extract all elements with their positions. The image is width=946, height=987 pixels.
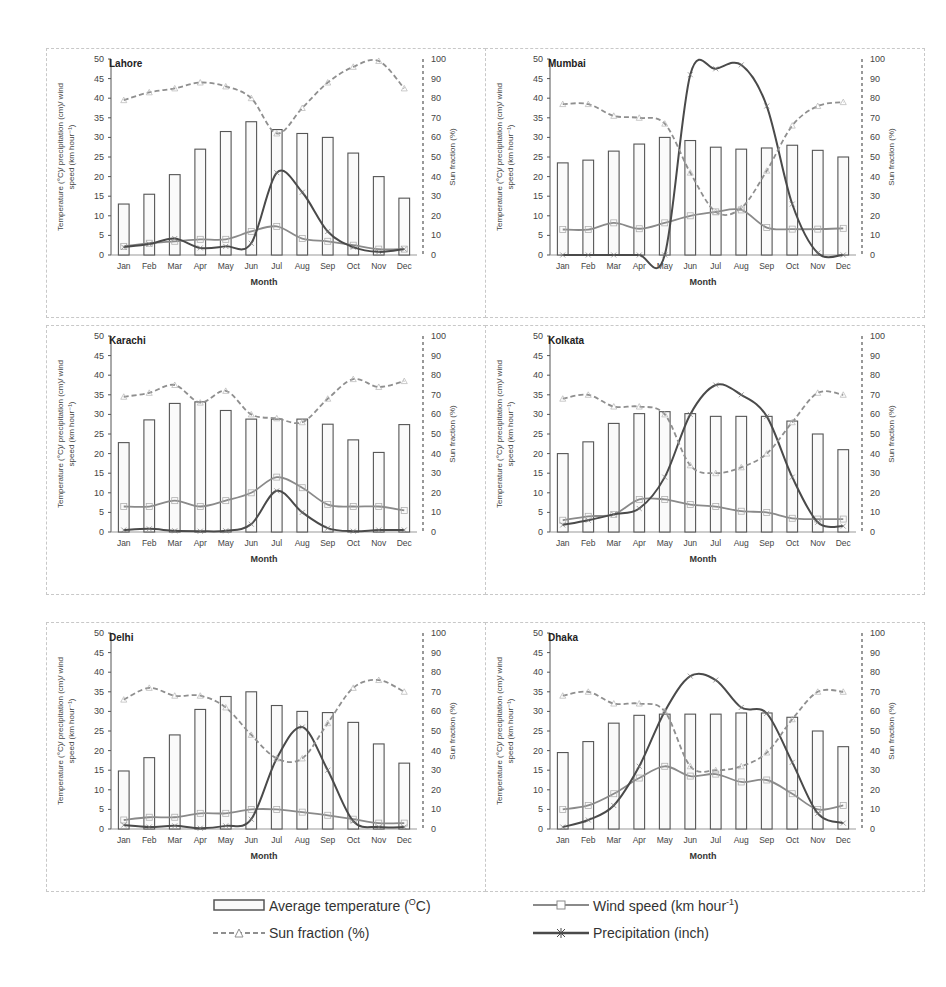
- svg-text:10: 10: [870, 804, 880, 814]
- temperature-bar: [761, 713, 772, 829]
- legend-item-sun: Sun fraction (%): [213, 925, 369, 941]
- svg-text:15: 15: [94, 765, 104, 775]
- svg-text:Dec: Dec: [397, 261, 413, 271]
- precip-line-swatch-icon: [533, 926, 589, 940]
- precip-line: [563, 674, 844, 827]
- svg-text:Oct: Oct: [347, 835, 361, 845]
- svg-text:10: 10: [94, 785, 104, 795]
- wind-line-swatch-icon: [533, 898, 589, 912]
- temperature-bar: [736, 416, 747, 532]
- svg-text:70: 70: [870, 390, 880, 400]
- svg-text:Mar: Mar: [606, 835, 621, 845]
- temperature-bar: [399, 763, 410, 829]
- svg-text:Jun: Jun: [683, 261, 697, 271]
- svg-text:20: 20: [870, 488, 880, 498]
- precip-line: [124, 170, 405, 251]
- legend-label-wind: Wind speed (km hour: [593, 898, 726, 914]
- svg-text:0: 0: [870, 250, 875, 260]
- svg-text:30: 30: [94, 706, 104, 716]
- svg-text:30: 30: [870, 191, 880, 201]
- svg-text:Sep: Sep: [320, 261, 335, 271]
- temperature-bar: [348, 153, 359, 255]
- svg-text:100: 100: [431, 628, 446, 638]
- precip-line: [124, 491, 405, 532]
- svg-text:20: 20: [94, 449, 104, 459]
- svg-text:Apr: Apr: [633, 835, 646, 845]
- wind-line: [563, 766, 844, 810]
- svg-text:40: 40: [94, 93, 104, 103]
- temperature-bar: [608, 723, 619, 829]
- svg-text:50: 50: [94, 54, 104, 64]
- sun-dashed-swatch-icon: [213, 926, 265, 940]
- svg-text:70: 70: [870, 687, 880, 697]
- svg-text:20: 20: [94, 172, 104, 182]
- svg-text:45: 45: [94, 74, 104, 84]
- svg-text:Month: Month: [690, 277, 717, 287]
- svg-text:Feb: Feb: [581, 835, 596, 845]
- svg-text:0: 0: [538, 824, 543, 834]
- svg-text:35: 35: [94, 113, 104, 123]
- svg-text:40: 40: [94, 667, 104, 677]
- svg-text:speed (km hour⁻¹): speed (km hour⁻¹): [67, 124, 76, 189]
- temperature-bar: [685, 414, 696, 532]
- svg-text:Jun: Jun: [683, 835, 697, 845]
- svg-text:60: 60: [431, 409, 441, 419]
- svg-text:Jan: Jan: [556, 538, 570, 548]
- plot-area: 0510152025303540455001020304050607080901…: [495, 54, 896, 287]
- sun-fraction-line: [563, 391, 844, 473]
- svg-text:Month: Month: [690, 851, 717, 861]
- svg-text:70: 70: [431, 687, 441, 697]
- temperature-bar: [271, 419, 282, 532]
- svg-text:Feb: Feb: [142, 835, 157, 845]
- svg-text:40: 40: [870, 449, 880, 459]
- svg-text:Sun fraction (%): Sun fraction (%): [448, 128, 457, 186]
- svg-text:50: 50: [431, 429, 441, 439]
- svg-text:Apr: Apr: [194, 261, 207, 271]
- svg-text:90: 90: [870, 74, 880, 84]
- temperature-bar: [144, 420, 155, 532]
- chart-title: Lahore: [109, 58, 142, 69]
- svg-text:50: 50: [533, 628, 543, 638]
- svg-text:25: 25: [94, 429, 104, 439]
- svg-text:45: 45: [533, 648, 543, 658]
- svg-text:35: 35: [94, 390, 104, 400]
- svg-text:10: 10: [870, 230, 880, 240]
- chart-svg: 0510152025303540455001020304050607080901…: [486, 623, 924, 891]
- svg-text:Nov: Nov: [810, 261, 826, 271]
- wind-line: [124, 226, 405, 249]
- svg-text:60: 60: [870, 409, 880, 419]
- temperature-bar: [685, 714, 696, 829]
- svg-text:25: 25: [533, 429, 543, 439]
- temperature-bar: [557, 753, 568, 829]
- legend-label-sun: Sun fraction (%): [269, 925, 369, 941]
- svg-text:10: 10: [431, 507, 441, 517]
- svg-text:Jul: Jul: [710, 261, 721, 271]
- svg-text:Sun fraction (%): Sun fraction (%): [887, 128, 896, 186]
- svg-text:40: 40: [431, 172, 441, 182]
- svg-text:20: 20: [533, 449, 543, 459]
- svg-text:40: 40: [533, 370, 543, 380]
- svg-text:Oct: Oct: [347, 538, 361, 548]
- chart-panel-kolkata: 0510152025303540455001020304050607080901…: [485, 325, 925, 595]
- svg-text:Aug: Aug: [295, 261, 310, 271]
- svg-text:speed (km hour⁻¹): speed (km hour⁻¹): [506, 698, 515, 763]
- svg-text:90: 90: [870, 351, 880, 361]
- svg-text:Month: Month: [251, 554, 278, 564]
- svg-text:Mar: Mar: [167, 835, 182, 845]
- legend-sup: O: [409, 897, 416, 907]
- svg-text:Mar: Mar: [167, 538, 182, 548]
- svg-text:50: 50: [870, 429, 880, 439]
- svg-text:10: 10: [431, 230, 441, 240]
- svg-text:10: 10: [94, 211, 104, 221]
- bar-swatch-icon: [213, 898, 265, 912]
- legend-label-temperature: Average temperature (: [269, 898, 409, 914]
- temperature-bar: [373, 744, 384, 829]
- temperature-bar: [169, 403, 180, 532]
- svg-text:80: 80: [870, 667, 880, 677]
- legend-sup: -1: [726, 897, 734, 907]
- plot-area: 0510152025303540455001020304050607080901…: [56, 54, 457, 287]
- svg-text:Nov: Nov: [371, 835, 387, 845]
- svg-text:Dec: Dec: [836, 835, 852, 845]
- svg-text:20: 20: [533, 172, 543, 182]
- precip-line: [563, 60, 844, 269]
